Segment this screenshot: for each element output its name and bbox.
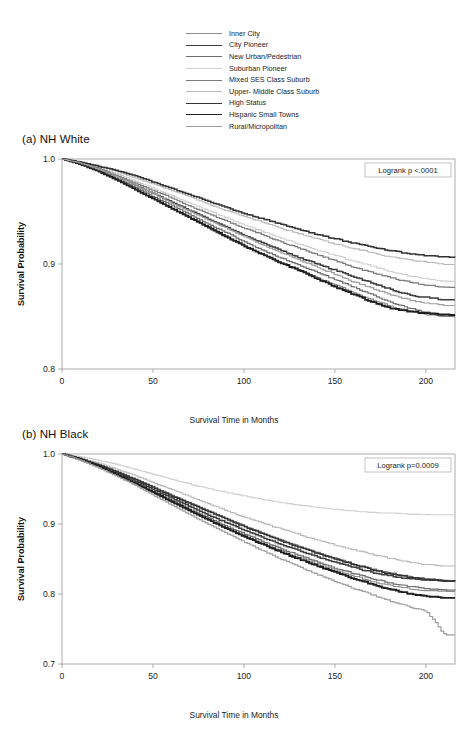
- legend-item: High Status: [186, 98, 386, 110]
- panel-a-title: (a) NH White: [22, 133, 90, 145]
- legend-item-label: Rural/Micropolitan: [229, 123, 287, 131]
- legend-swatch-line: [186, 126, 222, 127]
- x-tick-label: 100: [237, 671, 252, 681]
- x-tick-label: 0: [60, 376, 65, 386]
- y-axis-label: Survival Probability: [16, 517, 26, 601]
- legend-item-label: Suburban Pioneer: [229, 65, 287, 73]
- panel-a-plot: 0501001502000.80.91.0Survival Probabilit…: [0, 151, 468, 413]
- legend-item-label: City Pioneer: [229, 41, 268, 49]
- x-tick-label: 200: [419, 671, 434, 681]
- legend: Inner CityCity PioneerNew Urban/Pedestri…: [186, 28, 386, 132]
- y-tick-label: 0.7: [43, 659, 55, 669]
- legend-item: Rural/Micropolitan: [186, 121, 386, 133]
- legend-swatch-line: [186, 45, 222, 46]
- legend-swatch-line: [186, 114, 222, 115]
- panel-nh-white: (a) NH White 0501001502000.80.91.0Surviv…: [0, 133, 468, 433]
- y-tick-label: 0.8: [43, 364, 55, 374]
- legend-swatch-line: [186, 80, 222, 81]
- legend-item: Inner City: [186, 28, 386, 40]
- legend-item: Hispanic Small Towns: [186, 109, 386, 121]
- legend-swatch-line: [186, 33, 222, 34]
- plot-frame: [62, 159, 455, 369]
- legend-swatch-line: [186, 91, 222, 92]
- x-tick-label: 50: [148, 671, 158, 681]
- panel-b-plot: 0501001502000.70.80.91.0Survival Probabi…: [0, 446, 468, 708]
- panel-b-title: (b) NH Black: [22, 428, 88, 440]
- legend-item-label: High Status: [229, 99, 266, 107]
- legend-item: City Pioneer: [186, 40, 386, 52]
- y-tick-label: 0.9: [43, 519, 55, 529]
- panel-b-svg: 0501001502000.70.80.91.0Survival Probabi…: [0, 446, 468, 708]
- x-tick-label: 50: [148, 376, 158, 386]
- panel-a-xaxis-label: Survival Time in Months: [0, 415, 468, 425]
- legend-item: Upper- Middle Class Suburb: [186, 86, 386, 98]
- legend-swatch-line: [186, 103, 222, 104]
- panel-b-xaxis-label: Survival Time in Months: [0, 710, 468, 720]
- x-tick-label: 100: [237, 376, 252, 386]
- legend-item-label: Upper- Middle Class Suburb: [229, 88, 319, 96]
- panel-nh-black: (b) NH Black 0501001502000.70.80.91.0Sur…: [0, 428, 468, 733]
- legend-item-label: Inner City: [229, 30, 260, 38]
- legend-item-label: New Urban/Pedestrian: [229, 53, 301, 61]
- logrank-annotation: Logrank p <.0001: [378, 166, 437, 175]
- y-tick-label: 0.8: [43, 589, 55, 599]
- x-tick-label: 150: [328, 376, 343, 386]
- legend-swatch-line: [186, 56, 222, 57]
- legend-item: Suburban Pioneer: [186, 63, 386, 75]
- y-tick-label: 1.0: [43, 449, 55, 459]
- legend-item: Mixed SES Class Suburb: [186, 74, 386, 86]
- x-tick-label: 200: [419, 376, 434, 386]
- legend-swatch-line: [186, 68, 222, 69]
- survival-curve: [62, 454, 455, 635]
- survival-figure: Inner CityCity PioneerNew Urban/Pedestri…: [0, 0, 468, 740]
- survival-curve: [62, 454, 455, 581]
- panel-a-svg: 0501001502000.80.91.0Survival Probabilit…: [0, 151, 468, 413]
- x-tick-label: 0: [60, 671, 65, 681]
- x-tick-label: 150: [328, 671, 343, 681]
- legend-item-label: Mixed SES Class Suburb: [229, 76, 310, 84]
- y-axis-label: Survival Probability: [16, 222, 26, 306]
- legend-item: New Urban/Pedestrian: [186, 51, 386, 63]
- y-tick-label: 0.9: [43, 259, 55, 269]
- y-tick-label: 1.0: [43, 154, 55, 164]
- legend-item-label: Hispanic Small Towns: [229, 111, 299, 119]
- logrank-annotation: Logrank p=0.0009: [377, 461, 438, 470]
